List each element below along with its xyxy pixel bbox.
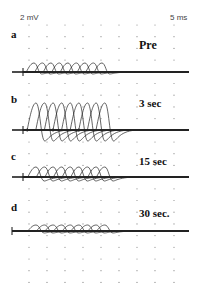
panel-letter-b: b <box>11 94 17 105</box>
evoked-potential-figure <box>0 0 201 291</box>
panel-letter-a: a <box>11 29 17 40</box>
voltage-scale-label: 2 mV <box>20 14 39 22</box>
panel-letter-c: c <box>11 151 16 162</box>
panel-letter-d: d <box>11 202 17 213</box>
condition-label-15sec: 15 sec <box>139 156 167 167</box>
condition-label-30sec: 30 sec. <box>139 208 170 219</box>
condition-label-3sec: 3 sec <box>139 98 161 109</box>
time-scale-label: 5 ms <box>170 14 187 22</box>
condition-label-pre: Pre <box>139 39 157 51</box>
